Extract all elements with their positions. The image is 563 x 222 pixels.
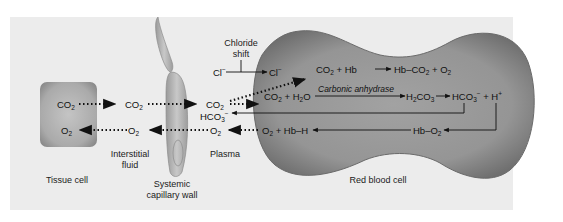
o2-plus-hbh: O2 + Hb–H (262, 125, 308, 137)
reaction-co2-hb-reactants: CO2 + Hb (316, 64, 357, 76)
oxyhemoglobin: Hb–O2 (413, 125, 442, 137)
label-plasma: Plasma (210, 149, 240, 159)
label-capillary-wall-2: capillary wall (146, 190, 197, 200)
capillary-wall-shape (156, 17, 188, 177)
label-tissue-cell: Tissue cell (46, 175, 88, 185)
chloride-shift-label-2: shift (233, 49, 250, 59)
tissue-cell-shape (40, 82, 97, 147)
label-interstitial-1: Interstitial (111, 149, 150, 159)
reaction-co2-hb-products: Hb–CO2 + O2 (394, 64, 452, 76)
plasma-co2: CO2 (206, 99, 224, 111)
label-red-blood-cell: Red blood cell (349, 175, 406, 185)
reaction-co2-water: CO2 + H2O (264, 91, 311, 103)
enzyme-carbonic-anhydrase: Carbonic anhydrase (318, 84, 394, 94)
interstitial-o2: O2 (128, 125, 139, 137)
red-blood-cell-shape (253, 31, 534, 179)
plasma-bicarbonate: HCO3− (200, 110, 229, 123)
plasma-chloride: Cl− (213, 66, 226, 78)
gas-exchange-diagram: CO2 CO2 CO2 O2 O2 O2 Chloride shift (0, 0, 563, 222)
label-capillary-wall-1: Systemic (154, 179, 191, 189)
carbonic-acid: H2CO3 (406, 91, 435, 103)
label-interstitial-2: fluid (122, 160, 139, 170)
interstitial-co2: CO2 (125, 99, 143, 111)
chloride-shift-label-1: Chloride (224, 38, 258, 48)
plasma-o2: O2 (210, 125, 221, 137)
